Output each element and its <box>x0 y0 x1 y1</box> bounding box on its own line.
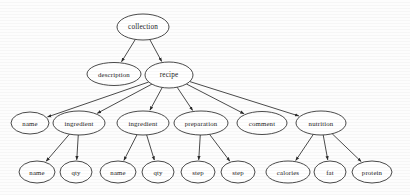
tree-diagram-svg: collectiondescriptionrecipenameingredien… <box>0 0 410 195</box>
tree-node-preparation[interactable]: preparation <box>174 111 228 135</box>
tree-edge-recipe-to-ingredient_1 <box>97 84 152 113</box>
tree-node-qty_i2[interactable]: qty <box>142 161 174 183</box>
tree-edge-nutrition-to-fat <box>323 135 328 160</box>
tree-node-qty_i1[interactable]: qty <box>60 161 92 183</box>
tree-edge-preparation-to-step_2 <box>210 134 230 161</box>
tree-node-step_1[interactable]: step <box>181 161 215 183</box>
tree-node-name_top[interactable]: name <box>11 112 49 134</box>
tree-diagram-canvas: collectiondescriptionrecipenameingredien… <box>0 0 410 195</box>
tree-edge-recipe-to-comment <box>186 84 244 114</box>
node-label-collection: collection <box>128 23 158 31</box>
node-label-name_i1: name <box>29 169 44 176</box>
tree-node-name_i2[interactable]: name <box>100 161 136 183</box>
tree-node-nutrition[interactable]: nutrition <box>296 111 346 135</box>
node-label-description: description <box>98 71 130 78</box>
edge-layer <box>46 39 361 161</box>
node-label-name_i2: name <box>110 169 125 176</box>
tree-node-step_2[interactable]: step <box>221 161 255 183</box>
node-layer: collectiondescriptionrecipenameingredien… <box>11 14 392 183</box>
tree-edge-collection-to-description <box>122 39 136 61</box>
tree-node-calories[interactable]: calories <box>266 161 310 183</box>
tree-edge-ingredient_1-to-qty_i1 <box>77 135 79 160</box>
node-label-nutrition: nutrition <box>309 120 334 127</box>
node-label-fat: fat <box>326 169 334 176</box>
tree-edge-preparation-to-step_1 <box>199 135 201 160</box>
tree-node-protein[interactable]: protein <box>352 161 392 183</box>
node-label-ingredient_2: ingredient <box>128 120 157 127</box>
node-label-calories: calories <box>277 169 300 176</box>
tree-node-comment[interactable]: comment <box>237 112 287 135</box>
tree-edge-nutrition-to-calories <box>296 134 314 160</box>
node-label-name_top: name <box>22 120 37 127</box>
tree-edge-ingredient_1-to-name_i1 <box>46 134 69 161</box>
tree-node-ingredient_2[interactable]: ingredient <box>117 111 169 135</box>
tree-node-fat[interactable]: fat <box>314 161 346 183</box>
node-label-step_2: step <box>232 169 244 176</box>
tree-node-recipe[interactable]: recipe <box>145 62 193 88</box>
node-label-step_1: step <box>192 169 204 176</box>
tree-node-ingredient_1[interactable]: ingredient <box>53 111 105 135</box>
tree-edge-nutrition-to-protein <box>332 134 361 162</box>
tree-edge-recipe-to-ingredient_2 <box>150 87 162 110</box>
tree-node-name_i1[interactable]: name <box>19 161 55 183</box>
tree-node-collection[interactable]: collection <box>117 14 169 40</box>
node-label-qty_i1: qty <box>71 169 81 176</box>
node-label-preparation: preparation <box>185 120 218 127</box>
tree-edge-collection-to-recipe <box>150 40 162 62</box>
node-label-qty_i2: qty <box>153 169 163 176</box>
node-label-comment: comment <box>249 120 275 127</box>
node-label-ingredient_1: ingredient <box>64 120 93 127</box>
tree-edge-ingredient_2-to-qty_i2 <box>147 135 155 160</box>
tree-edge-recipe-to-preparation <box>177 87 192 110</box>
node-label-recipe: recipe <box>160 71 178 79</box>
tree-node-description[interactable]: description <box>87 63 141 86</box>
tree-edge-ingredient_2-to-name_i2 <box>124 135 137 161</box>
node-label-protein: protein <box>362 169 383 176</box>
